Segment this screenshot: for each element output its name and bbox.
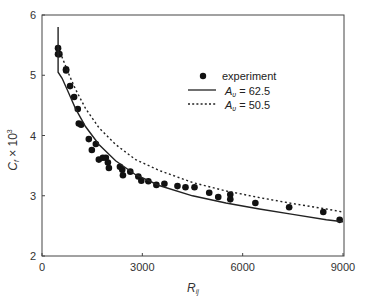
x-tick-label: 3000 [130,261,154,273]
data-point [320,209,327,216]
data-point [86,136,93,143]
fit-curve-solid [58,27,343,222]
fit-curve-dotted [58,48,343,212]
legend: experiment Aυ = 62.5 Aυ = 50.5 [188,70,276,112]
x-tick-label: 9000 [331,261,355,273]
data-point [63,67,70,74]
y-tick-label: 2 [30,250,36,262]
y-tick-label: 3 [30,190,36,202]
y-tick-label: 5 [30,69,36,81]
x-tick-label: 0 [39,261,45,273]
y-tick-label: 6 [30,9,36,21]
data-point [182,184,189,191]
data-point [252,200,259,207]
x-tick-label: 6000 [230,261,254,273]
data-point [174,183,181,190]
data-point [286,204,293,211]
data-point [206,189,213,196]
y-tick-label: 4 [30,130,36,142]
data-point [191,184,198,191]
data-point [56,51,63,58]
data-point [215,194,222,201]
legend-marker-experiment [200,73,206,79]
axis-ticks: 030006000900023456 [30,9,355,273]
data-point [106,165,113,172]
y-axis-label: Cf × 103 [6,129,20,171]
plot-frame [42,15,344,256]
plot-series [55,27,343,223]
legend-label-dotted: Aυ = 50.5 [224,99,270,112]
data-point [227,196,234,203]
legend-label-solid: Aυ = 62.5 [224,85,270,98]
x-axis-label: Rij [187,281,199,296]
legend-label-experiment: experiment [222,70,276,82]
data-point [89,147,96,154]
chart: 030006000900023456 experiment Aυ = 62.5 … [0,0,365,306]
